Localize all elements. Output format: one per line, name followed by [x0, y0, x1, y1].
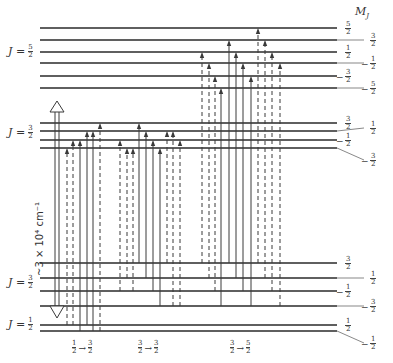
arrowhead-icon — [278, 63, 282, 69]
mj-label-lower_J32-3: 32 — [370, 299, 376, 314]
arrowhead-icon — [200, 52, 204, 58]
mj-label-upper_J32-2: 12 — [345, 133, 351, 148]
arrowhead-icon — [234, 52, 238, 58]
arrowhead-icon — [227, 40, 231, 46]
arrowhead-icon — [178, 140, 182, 146]
arrowhead-icon — [241, 63, 245, 69]
mj-label-upper_J52-3-sign: − — [361, 59, 369, 69]
mj-label-lower_J32-3-sign: − — [361, 302, 369, 312]
j-label-lower_J32: J =32 — [8, 275, 33, 290]
transition-group-label-2: 32→52 — [230, 340, 250, 355]
arrowhead-icon — [171, 131, 175, 137]
transition-arrows — [65, 28, 282, 331]
mj-label-upper_J32-2-sign: − — [336, 136, 344, 146]
mj-label-lower_J32-0: 32 — [345, 256, 351, 271]
arrowhead-icon — [165, 131, 169, 137]
arrowhead-icon — [219, 88, 223, 94]
arrowhead-icon — [131, 148, 135, 154]
j-label-upper_J32: J =32 — [8, 125, 33, 140]
mj-label-upper_J32-3: 32 — [370, 153, 376, 168]
mj-label-upper_J52-2: 12 — [345, 45, 351, 60]
mj-label-upper_J32-1: 12 — [370, 121, 376, 136]
arrowhead-icon — [98, 123, 102, 129]
mj-label-upper_J52-4: 32 — [345, 69, 351, 84]
mj-label-upper_J32-0: 32 — [345, 116, 351, 131]
transition-group-label-1: 32→32 — [138, 340, 158, 355]
mj-label-lower_J32-2-sign: − — [336, 287, 344, 297]
right-arrow-icon: → — [236, 343, 244, 353]
right-arrow-icon: → — [78, 343, 86, 353]
mj-label-lower_J12-0: 12 — [345, 318, 351, 333]
arrowhead-icon — [270, 52, 274, 58]
arrowhead-icon — [71, 140, 75, 146]
mj-label-upper_J32-3-sign: − — [361, 156, 369, 166]
energy-gap-double-arrow-icon — [50, 101, 64, 318]
arrowhead-icon — [158, 148, 162, 154]
mj-label-upper_J52-1: 32 — [370, 33, 376, 48]
mj-label-upper_J52-4-sign: − — [336, 72, 344, 82]
mj-label-upper_J52-5: 52 — [370, 81, 376, 96]
arrowhead-icon — [213, 76, 217, 82]
mj-label-upper_J52-3: 12 — [370, 56, 376, 71]
arrowhead-icon — [207, 63, 211, 69]
arrowhead-icon — [78, 140, 82, 146]
arrowhead-icon — [118, 140, 122, 146]
arrowhead-icon — [144, 131, 148, 137]
mj-label-lower_J12-1: 12 — [370, 336, 376, 351]
right-arrow-icon: → — [144, 343, 152, 353]
arrowhead-icon — [85, 131, 89, 137]
j-label-lower_J12: J =12 — [8, 317, 33, 332]
arrowhead-icon — [249, 76, 253, 82]
arrowhead-icon — [263, 40, 267, 46]
energy-gap-label: ~3 × 10⁴ cm⁻¹ — [34, 202, 45, 276]
mj-label-lower_J32-1: 12 — [370, 271, 376, 286]
mj-label-lower_J12-1-sign: − — [361, 339, 369, 349]
mj-header-subscript: J — [366, 12, 369, 20]
arrowhead-icon — [137, 123, 141, 129]
arrowhead-icon — [65, 148, 69, 154]
energy-level-diagram — [0, 0, 393, 363]
arrowhead-icon — [151, 140, 155, 146]
mj-label-upper_J52-5-sign: − — [361, 84, 369, 94]
arrowhead-icon — [91, 131, 95, 137]
energy-levels — [40, 28, 337, 331]
mj-label-upper_J52-0: 52 — [345, 21, 351, 36]
mj-label-lower_J32-2: 12 — [345, 284, 351, 299]
mj-header-letter: M — [355, 5, 366, 18]
arrowhead-icon — [125, 148, 129, 154]
mj-header: MJ — [355, 5, 369, 20]
j-label-upper_J52: J =52 — [8, 44, 33, 59]
arrowhead-icon — [256, 28, 260, 34]
transition-group-label-0: 12→32 — [72, 340, 92, 355]
